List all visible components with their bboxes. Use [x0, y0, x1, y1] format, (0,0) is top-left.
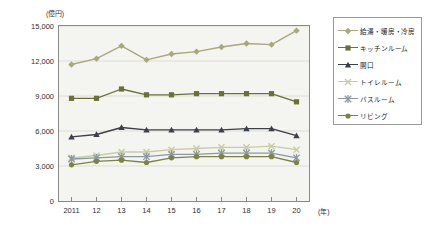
x-axis-tick-13: 13 — [117, 206, 125, 215]
legend-label: 開口 — [358, 60, 374, 70]
data-point-marker-diamond — [345, 28, 351, 34]
y-axis-tick-12000: 12,000 — [31, 57, 54, 66]
line-chart: (億円) 03,0006,0009,00012,00015,000 201112… — [0, 0, 425, 239]
data-point-marker-square — [345, 45, 350, 50]
series-line — [72, 31, 297, 65]
data-point-marker-circle — [345, 113, 350, 118]
chart-legend: 給湯・暖房・冷房キッチンルーム開口トイレルームバスルームリビング — [333, 17, 422, 125]
y-axis-tick-3000: 3,000 — [35, 162, 54, 171]
series-2 — [68, 124, 299, 139]
data-point-marker-square — [119, 86, 124, 91]
data-point-marker-square — [169, 92, 174, 97]
legend-marker-star-icon — [338, 93, 358, 104]
data-point-marker-diamond — [218, 44, 224, 50]
data-point-marker-circle — [219, 154, 224, 159]
legend-label: キッチンルーム — [358, 43, 408, 53]
series-3 — [69, 143, 300, 161]
x-axis-tick-14: 14 — [142, 206, 150, 215]
x-axis-tick-16: 16 — [192, 206, 200, 215]
legend-marker-triangle-icon — [338, 59, 358, 70]
data-point-marker-diamond — [68, 61, 74, 67]
data-point-marker-circle — [169, 155, 174, 160]
data-point-marker-square — [269, 91, 274, 96]
data-point-marker-circle — [69, 162, 74, 167]
data-point-marker-square — [69, 96, 74, 101]
x-axis-tick-15: 15 — [167, 206, 175, 215]
x-axis-tick-19: 19 — [267, 206, 275, 215]
data-point-marker-diamond — [193, 48, 199, 54]
x-axis-tick-12: 12 — [92, 206, 100, 215]
data-point-marker-square — [219, 91, 224, 96]
data-point-marker-circle — [269, 154, 274, 159]
legend-label: リビング — [358, 111, 388, 121]
legend-label: バスルーム — [358, 94, 395, 104]
y-axis-tick-labels: 03,0006,0009,00012,00015,000 — [0, 0, 54, 239]
data-point-marker-diamond — [143, 57, 149, 63]
x-axis-unit-label: (年) — [318, 206, 330, 216]
data-point-marker-triangle — [345, 62, 351, 68]
data-point-marker-square — [294, 99, 299, 104]
x-axis-tick-2011: 2011 — [63, 206, 79, 215]
data-point-marker-diamond — [293, 27, 299, 33]
legend-marker-x-icon — [338, 76, 358, 87]
series-1 — [69, 86, 299, 104]
data-point-marker-diamond — [118, 43, 124, 49]
series-0 — [68, 27, 299, 67]
y-axis-tick-9000: 9,000 — [35, 92, 54, 101]
x-axis-tick-20: 20 — [292, 206, 300, 215]
legend-item-3[interactable]: トイレルーム — [338, 73, 418, 90]
data-point-marker-diamond — [243, 40, 249, 46]
y-axis-tick-6000: 6,000 — [35, 127, 54, 136]
data-point-marker-square — [144, 92, 149, 97]
data-point-marker-x — [345, 79, 351, 85]
series-5 — [69, 154, 299, 167]
data-point-marker-circle — [119, 158, 124, 163]
data-point-marker-star — [345, 95, 351, 103]
x-axis-tick-18: 18 — [242, 206, 250, 215]
data-point-marker-diamond — [168, 51, 174, 57]
series-line — [72, 128, 297, 137]
data-point-marker-diamond — [268, 41, 274, 47]
legend-marker-square-icon — [338, 42, 358, 53]
legend-item-5[interactable]: リビング — [338, 107, 418, 124]
data-point-marker-square — [194, 91, 199, 96]
legend-item-4[interactable]: バスルーム — [338, 90, 418, 107]
y-axis-tick-15000: 15,000 — [31, 22, 54, 31]
series-line — [72, 89, 297, 102]
legend-marker-circle-icon — [338, 110, 358, 121]
legend-label: トイレルーム — [358, 77, 401, 87]
plot-area — [58, 25, 310, 202]
data-point-marker-circle — [94, 159, 99, 164]
x-axis-tick-17: 17 — [217, 206, 225, 215]
legend-label: 給湯・暖房・冷房 — [358, 26, 415, 36]
y-axis-tick-0: 0 — [50, 197, 54, 206]
data-point-marker-circle — [294, 160, 299, 165]
chart-series-canvas — [59, 26, 309, 201]
data-point-marker-circle — [194, 154, 199, 159]
legend-marker-diamond-icon — [338, 25, 358, 36]
data-point-marker-square — [94, 96, 99, 101]
legend-item-2[interactable]: 開口 — [338, 56, 418, 73]
data-point-marker-circle — [144, 160, 149, 165]
data-point-marker-circle — [244, 154, 249, 159]
data-point-marker-square — [244, 91, 249, 96]
legend-item-0[interactable]: 給湯・暖房・冷房 — [338, 22, 418, 39]
legend-item-1[interactable]: キッチンルーム — [338, 39, 418, 56]
